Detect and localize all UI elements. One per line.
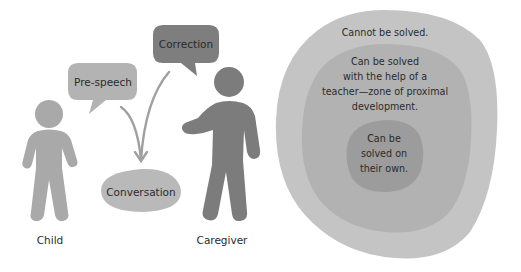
zone-of-proximal-development-diagram: Cannot be solved. Can be solved with the… xyxy=(276,10,498,258)
svg-text:teacher—zone of proximal: teacher—zone of proximal xyxy=(322,86,448,97)
svg-text:Can be solved: Can be solved xyxy=(351,56,419,67)
svg-text:Can be: Can be xyxy=(367,133,401,144)
caregiver-label: Caregiver xyxy=(197,234,249,246)
prespeech-label: Pre-speech xyxy=(74,76,132,88)
outer-zone-label: Cannot be solved. xyxy=(342,27,429,38)
correction-bubble: Correction xyxy=(153,25,219,76)
child-label: Child xyxy=(37,234,64,246)
svg-text:their own.: their own. xyxy=(360,163,408,174)
svg-text:solved on: solved on xyxy=(361,148,407,159)
conversation-label: Conversation xyxy=(106,186,175,198)
svg-text:with the help of a: with the help of a xyxy=(343,71,427,82)
svg-text:development.: development. xyxy=(352,101,418,112)
correction-label: Correction xyxy=(159,38,213,50)
caregiver-figure-icon xyxy=(182,67,260,221)
child-figure-icon xyxy=(22,100,77,221)
prespeech-bubble: Pre-speech xyxy=(68,63,137,114)
diagram-canvas: Pre-speech Correction Conversation Child… xyxy=(0,0,521,272)
language-development-diagram: Pre-speech Correction Conversation Child… xyxy=(22,25,260,246)
conversation-bubble: Conversation xyxy=(101,169,181,212)
